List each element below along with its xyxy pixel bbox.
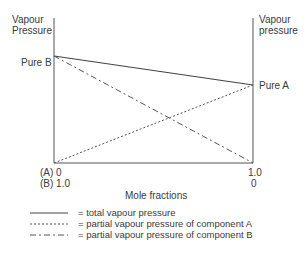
left-axis-label-2: Pressure	[12, 25, 52, 36]
right-axis-label-1: Vapour	[259, 14, 291, 25]
dotted-line-swatch	[30, 222, 70, 226]
legend-item-partial-a: = partial vapour pressure of component A	[30, 218, 252, 229]
x-left-b-tick: (B) 1.0	[40, 178, 70, 189]
legend-item-total: = total vapour pressure	[30, 207, 175, 218]
partial-b-line	[54, 56, 253, 163]
legend-item-partial-b: = partial vapour pressure of component B	[30, 229, 253, 240]
total-pressure-line	[54, 56, 253, 85]
x-axis-title: Mole fractions	[125, 190, 187, 201]
solid-line-swatch	[30, 211, 70, 215]
x-right-b-tick: 0	[251, 178, 257, 189]
right-axis-label-2: pressure	[259, 25, 298, 36]
partial-a-line	[54, 85, 253, 163]
pure-a-label: Pure A	[259, 80, 289, 91]
x-left-a-tick: (A) 0	[40, 167, 62, 178]
legend-label: = partial vapour pressure of component B	[78, 229, 253, 240]
legend-label: = partial vapour pressure of component A	[78, 218, 252, 229]
x-right-a-tick: 1.0	[248, 167, 262, 178]
legend-label: = total vapour pressure	[78, 207, 175, 218]
pure-b-label: Pure B	[21, 57, 52, 68]
dash-dot-line-swatch	[30, 233, 70, 237]
left-axis-label-1: Vapour	[12, 14, 44, 25]
